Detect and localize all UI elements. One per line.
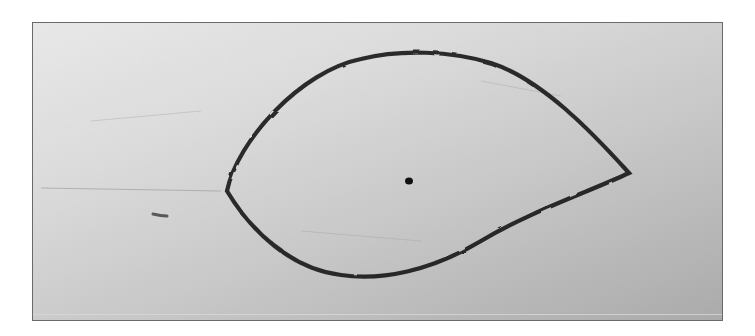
photo-edge-line [33, 314, 722, 315]
center-dot [405, 177, 413, 184]
drawing-canvas [33, 23, 723, 321]
photo-frame [32, 22, 723, 321]
